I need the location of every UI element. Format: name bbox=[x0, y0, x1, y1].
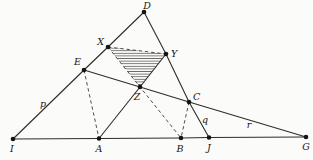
label-D: D bbox=[142, 0, 151, 11]
point-I bbox=[11, 137, 16, 142]
point-B bbox=[179, 136, 184, 141]
point-Y bbox=[164, 52, 169, 57]
line-label-p: p bbox=[40, 98, 46, 109]
label-X: X bbox=[96, 36, 105, 47]
label-E: E bbox=[73, 56, 81, 67]
diagram-svg: DXYEZCIABJGpqr bbox=[0, 0, 313, 160]
point-A bbox=[97, 136, 102, 141]
geometry-diagram: DXYEZCIABJGpqr bbox=[0, 0, 313, 160]
point-G bbox=[304, 135, 309, 140]
point-J bbox=[207, 135, 212, 140]
label-Z: Z bbox=[133, 91, 141, 102]
label-G: G bbox=[302, 141, 310, 152]
point-C bbox=[187, 100, 192, 105]
point-E bbox=[82, 68, 87, 73]
point-X bbox=[106, 45, 111, 50]
label-C: C bbox=[193, 91, 201, 102]
line-label-q: q bbox=[202, 114, 208, 125]
label-A: A bbox=[95, 143, 103, 154]
point-Z bbox=[138, 85, 143, 90]
label-B: B bbox=[176, 143, 184, 154]
figure-background bbox=[0, 0, 313, 160]
label-I: I bbox=[9, 143, 14, 154]
